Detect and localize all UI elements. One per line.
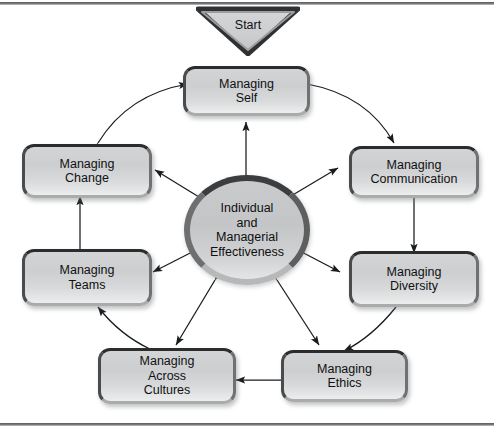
- node-managing-across-cultures[interactable]: Managing Across Cultures: [98, 348, 236, 404]
- arc-self-comm: [307, 84, 394, 143]
- arc-change-self: [98, 84, 188, 143]
- hub-label: Individual and Managerial Effectiveness: [210, 201, 284, 259]
- spoke-hub-change: [155, 170, 199, 197]
- node-managing-self[interactable]: Managing Self: [183, 66, 310, 116]
- hub-circle: Individual and Managerial Effectiveness: [184, 175, 310, 285]
- node-label: Managing Across Cultures: [140, 354, 195, 398]
- node-label: Managing Teams: [60, 263, 115, 292]
- node-managing-change[interactable]: Managing Change: [22, 144, 152, 198]
- node-label: Managing Self: [219, 77, 274, 106]
- node-label: Managing Diversity: [387, 265, 442, 294]
- spoke-hub-ethics: [277, 280, 319, 345]
- node-managing-communication[interactable]: Managing Communication: [349, 146, 479, 198]
- node-label: Managing Ethics: [317, 362, 372, 391]
- node-managing-teams[interactable]: Managing Teams: [22, 249, 152, 306]
- spoke-hub-communication: [291, 168, 338, 196]
- arc-cultures-teams: [98, 307, 150, 349]
- diagram-canvas: Start Individual and Managerial Effectiv…: [0, 0, 494, 432]
- node-label: Managing Communication: [371, 158, 458, 187]
- node-managing-ethics[interactable]: Managing Ethics: [281, 350, 408, 402]
- arc-diversity-ethics: [344, 307, 396, 351]
- start-marker: Start: [196, 6, 300, 56]
- node-label: Managing Change: [60, 157, 115, 186]
- node-managing-diversity[interactable]: Managing Diversity: [349, 251, 479, 307]
- start-triangle-shape: [198, 9, 298, 54]
- spoke-hub-cultures: [176, 280, 215, 345]
